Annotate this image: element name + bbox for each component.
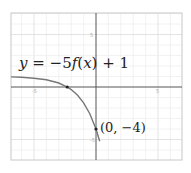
eq-mid: = −5 [27,54,71,72]
svg-text:5: 5 [156,88,159,94]
graph: -555-5 [0,0,191,173]
equation-label: y = −5f(x) + 1 [19,54,129,72]
point-label-y-intercept: (0, −4) [100,120,146,135]
svg-text:-5: -5 [90,137,95,143]
svg-text:-5: -5 [32,88,37,94]
svg-text:5: 5 [90,32,93,38]
eq-rest: ) + 1 [92,54,130,72]
eq-x: x [83,54,91,72]
